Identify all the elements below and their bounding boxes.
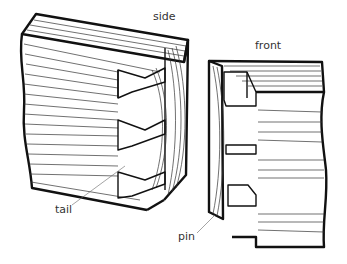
side-piece [21, 14, 188, 210]
pin-leader-line [197, 215, 215, 233]
label-side: side [153, 10, 176, 23]
label-tail: tail [55, 203, 72, 216]
tail-leader-line [72, 166, 125, 205]
label-pin: pin [178, 230, 195, 243]
front-piece [209, 61, 326, 247]
dovetail-diagram: side front tail pin [0, 0, 347, 264]
label-front: front [255, 39, 282, 52]
